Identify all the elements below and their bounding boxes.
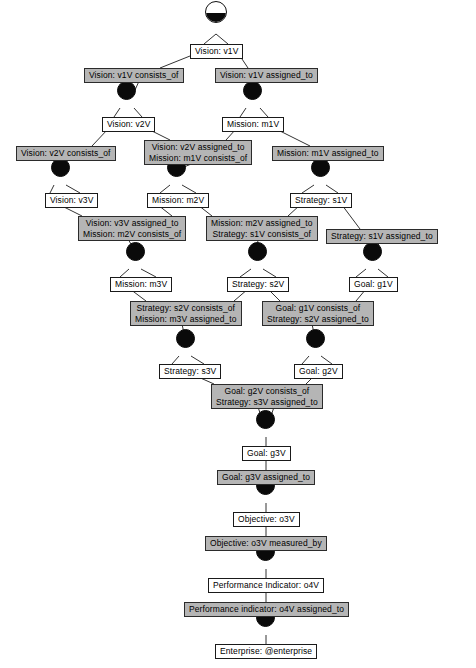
edge-line	[191, 356, 204, 364]
edge-layer	[0, 0, 476, 668]
arc-label-box[interactable]: Goal: g2V consists_ofStrategy: s3V assig…	[211, 384, 323, 409]
node-label-box[interactable]: Goal: g3V	[242, 446, 291, 461]
node-label-box[interactable]: Objective: o3V	[233, 512, 300, 527]
edge-line	[263, 269, 276, 277]
label-text-line: Strategy: s2V	[232, 279, 284, 290]
edge-line	[160, 56, 190, 68]
label-text-line: Vision: v1V assigned_to	[220, 70, 313, 81]
arc-label-box[interactable]: Goal: g1V consists_ofStrategy: s2V assig…	[262, 301, 374, 326]
edge-line	[66, 185, 80, 193]
label-text-line: Mission: m3V assigned_to	[135, 314, 237, 325]
node-label-box[interactable]: Mission: m3V	[110, 277, 172, 292]
label-text-line: Vision: v2V	[107, 119, 150, 130]
node-label-box[interactable]: Mission: m2V	[147, 193, 209, 208]
edge-line	[160, 185, 170, 193]
arc-label-box[interactable]: Mission: m1V assigned_to	[272, 146, 384, 161]
label-text-line: Vision: v2V assigned_to	[149, 142, 247, 153]
edge-line	[321, 356, 332, 364]
edge-line	[260, 108, 268, 117]
label-text-line: Strategy: s3V assigned_to	[216, 397, 318, 408]
label-text-line: Objective: o3V	[238, 514, 295, 525]
edge-line	[204, 34, 216, 44]
edge-line	[302, 356, 309, 364]
label-text-line: Mission: m2V consists_of	[83, 229, 181, 240]
edge-line	[120, 269, 129, 277]
label-text-line: Enterprise: @enterprise	[220, 646, 312, 657]
arc-label-box[interactable]: Mission: m2V assigned_toStrategy: s1V co…	[206, 216, 318, 241]
label-text-line: Strategy: s1V consists_of	[211, 229, 313, 240]
node-label-box[interactable]: Strategy: s2V	[227, 277, 289, 292]
label-text-line: Vision: v1V consists_of	[89, 70, 179, 81]
edge-line	[92, 129, 108, 146]
edge-line	[182, 185, 196, 193]
edge-line	[276, 129, 310, 146]
label-text-line: Vision: v1V	[195, 46, 238, 57]
vertex-node[interactable]	[117, 81, 136, 100]
vertex-node[interactable]	[176, 329, 195, 348]
label-text-line: Goal: g2V consists_of	[216, 386, 318, 397]
label-text-line: Strategy: s1V assigned_to	[331, 231, 433, 242]
label-text-line: Mission: m1V assigned_to	[277, 148, 379, 159]
arc-label-box[interactable]: Vision: v2V assigned_toMission: m1V cons…	[144, 140, 252, 165]
node-label-box[interactable]: Enterprise: @enterprise	[215, 644, 317, 659]
label-text-line: Mission: m1V	[227, 119, 279, 130]
label-text-line: Goal: g3V	[247, 448, 286, 459]
arc-label-box[interactable]: Vision: v2V consists_of	[16, 146, 116, 161]
root-vertex-lower-half	[205, 13, 227, 23]
node-label-box[interactable]: Goal: g1V	[349, 277, 398, 292]
arc-label-box[interactable]: Performance indicator: o4V assigned_to	[184, 602, 349, 617]
label-text-line: Goal: g3V assigned_to	[222, 472, 310, 483]
vertex-node[interactable]	[126, 242, 145, 261]
label-text-line: Strategy: s2V assigned_to	[267, 314, 369, 325]
label-text-line: Mission: m2V assigned_to	[211, 218, 313, 229]
edge-line	[240, 108, 246, 117]
label-text-line: Goal: g1V	[354, 279, 393, 290]
arc-label-box[interactable]: Strategy: s2V consists_ofMission: m3V as…	[130, 301, 242, 326]
label-text-line: Mission: m2V	[152, 195, 204, 206]
edge-line	[240, 269, 251, 277]
diagram-canvas: Vision: v1VVision: v1V consists_ofVision…	[0, 0, 476, 668]
edge-line	[342, 205, 360, 229]
node-label-box[interactable]: Vision: v1V	[190, 44, 243, 59]
arc-label-box[interactable]: Strategy: s1V assigned_to	[326, 229, 438, 244]
label-text-line: Vision: v3V assigned_to	[83, 218, 181, 229]
edge-line	[302, 185, 314, 193]
label-text-line: Vision: v2V consists_of	[21, 148, 111, 159]
node-label-box[interactable]: Performance Indicator: o4V	[208, 578, 324, 593]
node-label-box[interactable]: Mission: m1V	[222, 117, 284, 132]
label-text-line: Objective: o3V measured_by	[210, 538, 322, 549]
edge-line	[141, 269, 156, 277]
label-text-line: Performance Indicator: o4V	[213, 580, 319, 591]
label-text-line: Goal: g2V	[299, 366, 338, 377]
root-vertex-node[interactable]	[205, 1, 227, 23]
edge-line	[378, 269, 388, 277]
edge-line	[356, 269, 366, 277]
edge-line	[134, 108, 142, 117]
vertex-node[interactable]	[363, 242, 382, 261]
node-label-box[interactable]: Strategy: s1V	[290, 193, 352, 208]
arc-label-box[interactable]: Vision: v1V assigned_to	[215, 68, 318, 83]
vertex-node[interactable]	[248, 242, 267, 261]
label-text-line: Performance indicator: o4V assigned_to	[189, 604, 344, 615]
node-label-box[interactable]: Strategy: s3V	[159, 364, 221, 379]
arc-label-box[interactable]: Vision: v3V assigned_toMission: m2V cons…	[78, 216, 186, 241]
edge-line	[114, 108, 120, 117]
arc-label-box[interactable]: Goal: g3V assigned_to	[217, 470, 315, 485]
label-text-line: Strategy: s3V	[164, 366, 216, 377]
label-text-line: Mission: m3V	[115, 279, 167, 290]
arc-label-box[interactable]: Vision: v1V consists_of	[84, 68, 184, 83]
vertex-node[interactable]	[256, 410, 275, 429]
edge-line	[216, 34, 228, 44]
label-text-line: Mission: m1V consists_of	[149, 153, 247, 164]
vertex-node[interactable]	[243, 81, 262, 100]
edge-line	[172, 356, 179, 364]
node-label-box[interactable]: Vision: v2V	[102, 117, 155, 132]
label-text-line: Strategy: s2V consists_of	[135, 303, 237, 314]
arc-label-box[interactable]: Objective: o3V measured_by	[205, 536, 327, 551]
edge-line	[326, 185, 338, 193]
node-label-box[interactable]: Goal: g2V	[294, 364, 343, 379]
label-text-line: Vision: v3V	[50, 195, 93, 206]
vertex-node[interactable]	[306, 329, 325, 348]
label-text-line: Strategy: s1V	[295, 195, 347, 206]
node-label-box[interactable]: Vision: v3V	[45, 193, 98, 208]
